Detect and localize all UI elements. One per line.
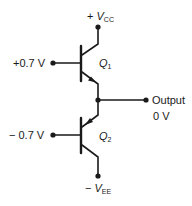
q1-base-input-label: +0.7 V: [13, 57, 45, 69]
q2-label: Q2: [99, 130, 111, 146]
q1-subscript: 1: [108, 63, 112, 70]
vcc-sign: +: [87, 10, 93, 22]
q1-collector-lead: [82, 27, 98, 55]
q1-label: Q1: [99, 57, 111, 73]
vee-sign: −: [85, 182, 91, 194]
q2-base-input-label: − 0.7 V: [9, 129, 44, 141]
q1-id: Q: [99, 57, 108, 69]
q2-base-voltage: − 0.7 V: [9, 129, 44, 141]
vee-symbol: V: [95, 182, 102, 194]
vcc-symbol: V: [97, 10, 104, 22]
vee-terminal-dot: [95, 173, 100, 178]
q1-base-voltage: +0.7 V: [13, 57, 45, 69]
vcc-subscript: CC: [104, 16, 114, 23]
q2-collector-lead: [82, 145, 98, 176]
output-value: 0 V: [153, 110, 170, 122]
q1-base-terminal-dot: [50, 60, 55, 65]
vee-label: − VEE: [85, 182, 111, 198]
q2-id: Q: [99, 130, 108, 142]
vee-subscript: EE: [102, 188, 111, 195]
output-value-label: 0 V: [153, 110, 170, 122]
q1-emitter-lead: [82, 72, 98, 100]
q2-base-terminal-dot: [50, 132, 55, 137]
q2-subscript: 2: [108, 136, 112, 143]
emitter-junction-dot: [95, 97, 100, 102]
output-terminal-dot: [143, 97, 148, 102]
vcc-label: + VCC: [87, 10, 114, 26]
output-label: Output: [152, 94, 185, 106]
output-text: Output: [152, 94, 185, 106]
